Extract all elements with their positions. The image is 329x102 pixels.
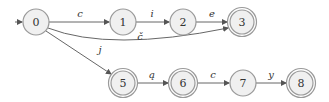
state-8-accepting: 8 xyxy=(287,69,316,98)
state-7: 7 xyxy=(230,70,256,96)
state-label-7: 7 xyxy=(240,77,247,90)
edge-0-3: č xyxy=(48,28,228,42)
state-5-accepting: 5 xyxy=(109,69,138,98)
state-3-accepting: 3 xyxy=(228,8,257,37)
edge-label-0-3: č xyxy=(137,31,143,42)
edge-0-1: c xyxy=(49,8,109,22)
edge-label-1-2: i xyxy=(150,8,153,19)
edge-7-8: y xyxy=(256,69,286,83)
state-6-accepting: 6 xyxy=(169,69,198,98)
edge-label-6-7: c xyxy=(210,69,216,80)
edge-label-0-1: c xyxy=(77,8,83,19)
state-0: 0 xyxy=(23,9,49,35)
state-label-1: 1 xyxy=(120,16,127,29)
edge-label-2-3: e xyxy=(209,8,215,19)
state-label-2: 2 xyxy=(180,16,187,29)
state-label-8: 8 xyxy=(298,77,305,90)
state-2: 2 xyxy=(170,9,196,35)
edge-5-6: ą xyxy=(138,69,168,83)
edge-6-7: c xyxy=(198,69,229,83)
edge-1-2: i xyxy=(136,8,169,22)
edge-2-3: e xyxy=(196,8,227,22)
state-1: 1 xyxy=(110,9,136,35)
state-label-0: 0 xyxy=(33,16,40,29)
edge-label-7-8: y xyxy=(267,69,274,80)
edge-0-5: j xyxy=(46,31,111,74)
automaton-diagram: c i e č j ą c y 0 1 2 3 xyxy=(0,0,329,102)
state-label-6: 6 xyxy=(180,77,187,90)
state-label-3: 3 xyxy=(239,16,246,29)
state-label-5: 5 xyxy=(120,77,127,90)
edge-label-5-6: ą xyxy=(149,69,155,80)
edge-label-0-5: j xyxy=(96,44,101,55)
